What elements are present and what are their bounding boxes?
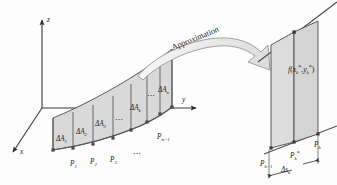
x-axis-label: x [19,147,24,156]
point-label-n-minus-1: Pn−1 [156,133,170,142]
point-label-k: Pk [313,141,321,150]
point-label-k-star: Pk* [289,150,300,161]
point-ellipsis: ⋯ [133,149,142,158]
panel-front-face [294,21,318,142]
point-label-2: P2 [89,158,97,167]
area-ellipsis-1: ⋯ [115,115,124,124]
diagram-canvas: Approximation [0,0,337,185]
x-axis [13,108,42,152]
surface-area-approximation-figure: Approximation [0,0,337,185]
z-axis-label: z [46,15,50,24]
point-label-1: P1 [69,160,77,169]
apex-marker [292,30,295,33]
point-label-k-minus-1: Pk−1 [259,160,272,169]
point-label-3: P3 [109,156,117,165]
y-axis-label: y [181,95,186,104]
panel-rear-face [271,32,294,148]
width-label: Δsk [280,166,291,175]
area-ellipsis-2: ⋯ [147,91,156,100]
